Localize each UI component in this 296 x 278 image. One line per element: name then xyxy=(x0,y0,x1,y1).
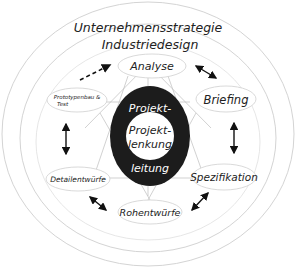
node-label-analyse: Analyse xyxy=(129,60,174,73)
node-detailentwuerfe: Detailentwürfe xyxy=(46,167,110,191)
center-label-steering-2: lenkung xyxy=(128,138,172,151)
arrow-analyse-briefing xyxy=(196,66,216,78)
node-label-spezifikation: Spezifikation xyxy=(190,171,258,183)
node-label-rohentwuerfe: Rohentwürfe xyxy=(120,207,181,218)
node-spezifikation: Spezifikation xyxy=(190,164,258,190)
node-label-prototypenbau-2: Test xyxy=(57,101,69,107)
node-label-briefing: Briefing xyxy=(204,93,249,107)
center-label-project-top: Projekt- xyxy=(129,102,171,115)
design-process-diagram: Unternehmensstrategie Industriedesign Pr… xyxy=(0,0,296,278)
arrow-spezifikation-rohentwuerfe xyxy=(192,193,208,210)
node-rohentwuerfe: Rohentwürfe xyxy=(118,200,182,224)
center-label-leitung: leitung xyxy=(131,162,169,175)
node-briefing: Briefing xyxy=(196,86,256,112)
ring-label-strategy: Unternehmensstrategie xyxy=(74,20,223,35)
center-label-steering-1: Projekt- xyxy=(129,124,171,137)
node-label-detailentwuerfe: Detailentwürfe xyxy=(50,175,106,184)
node-analyse: Analyse xyxy=(118,54,186,78)
ring-label-industrial-design: Industriedesign xyxy=(102,37,199,52)
arrow-prototyp-to-analyse xyxy=(80,65,110,80)
node-prototypenbau-test: Prototypenbau & Test xyxy=(47,88,107,112)
node-label-prototypenbau-1: Prototypenbau & xyxy=(54,94,101,101)
arrow-rohentwuerfe-detailentwuerfe xyxy=(90,197,106,210)
